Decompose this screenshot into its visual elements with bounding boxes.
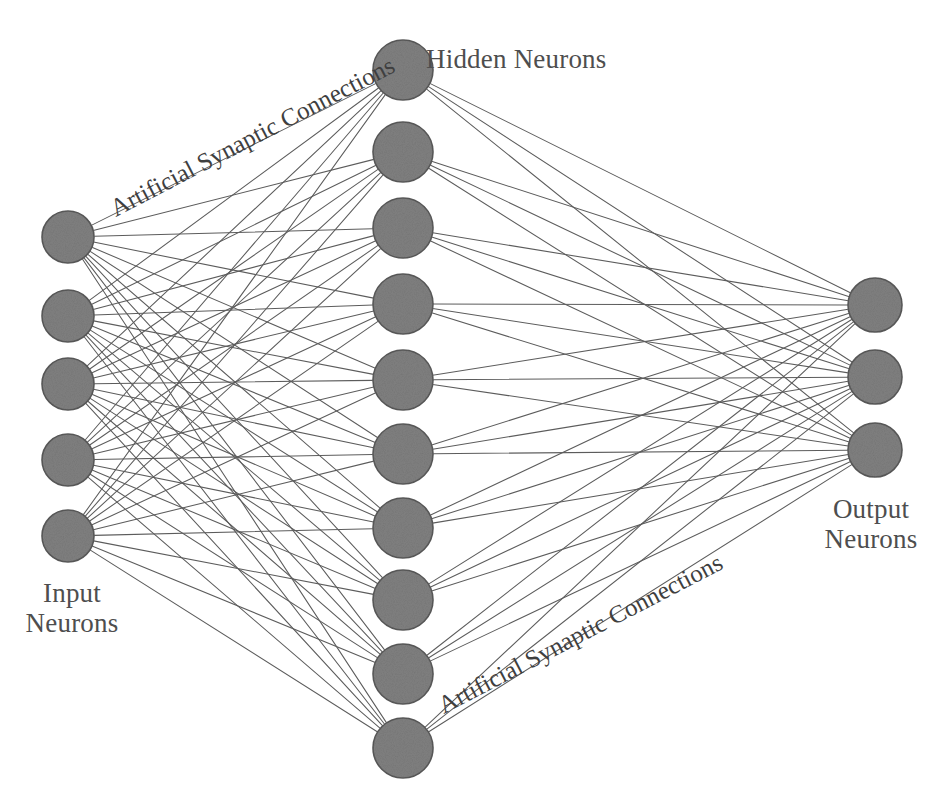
synapse-connection <box>428 86 852 362</box>
synapse-connection <box>428 319 852 584</box>
synapse-connection <box>94 321 374 374</box>
output-neuron <box>848 423 902 477</box>
input-neuron <box>42 358 94 410</box>
synapse-connection <box>94 242 374 298</box>
input-neuron <box>42 510 94 562</box>
input-label-line2: Neurons <box>26 608 119 638</box>
synapse-connection <box>90 474 378 658</box>
synapse-connection <box>433 309 849 373</box>
output-label-line2: Neurons <box>825 524 918 554</box>
output-neuron <box>848 278 902 332</box>
synapse-connection <box>432 237 850 369</box>
edges-hidden-to-output <box>425 83 855 732</box>
synapse-connection <box>426 89 854 433</box>
hidden-neuron <box>373 424 433 484</box>
hidden-neuron <box>373 570 433 630</box>
hidden-neuron <box>373 122 433 182</box>
synapse-connection <box>85 175 383 517</box>
input-neuron <box>42 290 94 342</box>
synapse-connection <box>432 161 850 296</box>
hidden-neuron <box>373 198 433 258</box>
hidden-neuron <box>373 350 433 410</box>
hidden-neuron <box>373 274 433 334</box>
synapse-connection <box>433 309 849 375</box>
output-label-line1: Output <box>833 494 909 524</box>
output-neuron <box>848 350 902 404</box>
input-label-line1: Input <box>43 578 101 608</box>
input-neuron <box>42 434 94 486</box>
synapse-connection <box>86 403 383 726</box>
hidden-neuron-group <box>373 40 433 778</box>
synapse-connection <box>433 304 848 305</box>
output-neuron-group <box>848 278 902 477</box>
hidden-neuron <box>373 498 433 558</box>
synapse-connection <box>94 541 374 594</box>
synapse-connection <box>93 236 374 310</box>
neural-network-diagram: InputNeurons OutputNeurons Hidden Neuron… <box>0 0 938 812</box>
input-layer-label: InputNeurons <box>14 578 130 638</box>
synapse-connection <box>93 461 374 530</box>
output-layer-label: OutputNeurons <box>806 494 936 554</box>
synapse-connection <box>430 317 850 516</box>
hidden-neuron <box>373 718 433 778</box>
input-neuron <box>42 211 94 263</box>
synapse-connection <box>90 550 378 732</box>
hidden-neuron <box>373 644 433 704</box>
synapse-connection <box>430 165 851 365</box>
synapse-connection <box>433 233 849 301</box>
synapse-connection <box>93 387 374 454</box>
synapse-connection <box>430 241 850 439</box>
hidden-layer-label: Hidden Neurons <box>426 44 607 74</box>
synapse-connection <box>428 168 852 436</box>
input-neuron-group <box>42 211 94 562</box>
